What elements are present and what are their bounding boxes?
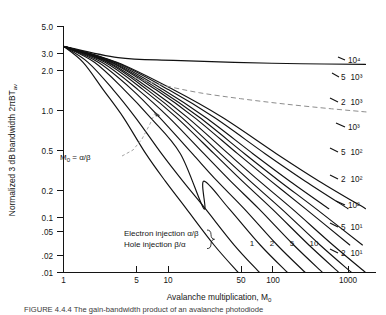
hole-injection-note: Hole injection β/α	[124, 240, 186, 249]
y-tick-label-3.0: 3.0	[42, 50, 54, 59]
curve-label-1: 1	[250, 239, 255, 248]
curve-k-2-x-10-3	[64, 46, 329, 208]
x-tick-label-10: 10	[163, 276, 173, 285]
y-tick-label-1.0: 1.0	[42, 107, 54, 116]
curve-label-10e4: 10⁴	[348, 56, 361, 65]
electron-injection-note: Electron injection α/β	[124, 229, 199, 238]
y-tick-label-0.1: 0.1	[42, 214, 54, 223]
x-ticks-group	[64, 266, 349, 273]
curve-k-2-x-10-2	[64, 46, 366, 272]
x-tick-label-1000: 1000	[339, 276, 358, 285]
curve-label-5-10e3: 510³	[341, 73, 363, 82]
injection-brace-icon	[207, 230, 215, 249]
curves-group	[64, 46, 366, 272]
x-tick-label-50: 50	[236, 276, 246, 285]
curve-label-10e2: 10²	[348, 201, 360, 210]
curve-label-5: 5	[290, 239, 295, 248]
figure-container: 5.0 3.0 2.0 1.0 0.5 0.2 0.1 .05 .02 .01 …	[0, 0, 386, 315]
figure-caption: FIGURE 4.4.4 The gain-bandwidth product …	[24, 305, 263, 314]
curve-k-2	[64, 46, 260, 272]
curve-k-10-3	[64, 46, 363, 245]
m0-annotation-rest: = α/β	[70, 153, 91, 162]
x-tick-label-1: 1	[61, 276, 66, 285]
curve-label-5-10e2: 510²	[341, 148, 363, 157]
curve-label-2-10e1: 210¹	[341, 249, 363, 258]
curve-label-2-10e3: 210³	[341, 98, 363, 107]
y-tick-label-2.0: 2.0	[42, 67, 54, 76]
y-tick-label-0.05: .05	[42, 228, 54, 237]
y-tick-label-0.5: 0.5	[42, 147, 54, 156]
y-axis-title: Normalized 3 dB bandwidth 2πBTav	[7, 83, 18, 216]
curve-label-10e3: 10³	[348, 123, 360, 132]
curve-k-2-x-10-1	[64, 46, 323, 272]
curve-label-2: 2	[270, 239, 275, 248]
curve-label-2-10e2: 210²	[341, 175, 363, 184]
y-tick-label-0.02: .02	[42, 252, 54, 261]
steep-curve-labels-group: 1 2 5 10	[250, 239, 319, 248]
x-axis-title: Avalanche multiplication, M0	[167, 292, 272, 303]
y-tick-label-0.01: .01	[42, 269, 54, 278]
locus-arrow-icon	[155, 112, 160, 117]
curve-label-10: 10	[310, 239, 319, 248]
right-curve-labels-group: 10⁴ 510³ 210³ 10³ 510² 210² 10² 510¹	[341, 56, 363, 258]
y-tick-labels-group: 5.0 3.0 2.0 1.0 0.5 0.2 0.1 .05 .02 .01	[42, 23, 54, 278]
x-tick-label-100: 100	[266, 276, 280, 285]
x-tick-labels-group: 1 5 10 50 100 1000	[61, 276, 357, 285]
m0-leader-line	[122, 139, 142, 156]
m0-annotation-label: M0 = α/β	[60, 153, 91, 163]
curve-label-5-10e1: 510¹	[341, 223, 363, 232]
y-tick-label-0.2: 0.2	[42, 187, 54, 196]
avalanche-bandwidth-chart: 5.0 3.0 2.0 1.0 0.5 0.2 0.1 .05 .02 .01 …	[0, 0, 386, 315]
curve-k-5-x-10-2	[64, 46, 350, 245]
y-tick-label-5.0: 5.0	[42, 23, 54, 32]
x-tick-label-5: 5	[134, 276, 139, 285]
curve-k-10-2	[64, 46, 352, 272]
y-ticks-group	[57, 27, 64, 273]
